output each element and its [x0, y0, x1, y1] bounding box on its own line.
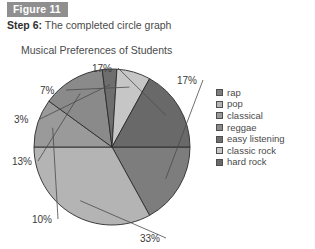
- chart-legend: rappopclassicalreggaeeasy listeningclass…: [216, 87, 312, 168]
- slice-value-label: 13%: [12, 156, 32, 167]
- pie-chart-svg: 17%33%10%13%3%7%17%: [12, 52, 212, 242]
- legend-label: pop: [227, 99, 243, 109]
- legend-swatch-icon: [216, 136, 223, 143]
- slice-value-label: 7%: [40, 85, 55, 96]
- step-label: Step 6:: [7, 19, 42, 31]
- step-text: The completed circle graph: [45, 19, 172, 31]
- legend-label: reggae: [227, 123, 257, 133]
- legend-label: classical: [227, 111, 263, 121]
- legend-swatch-icon: [216, 124, 223, 131]
- legend-item-reggae[interactable]: reggae: [216, 122, 312, 134]
- legend-item-easy-listening[interactable]: easy listening: [216, 133, 312, 145]
- legend-item-pop[interactable]: pop: [216, 99, 312, 111]
- legend-swatch-icon: [216, 101, 223, 108]
- slice-value-label: 17%: [92, 63, 112, 74]
- legend-item-rap[interactable]: rap: [216, 87, 312, 99]
- legend-item-classic-rock[interactable]: classic rock: [216, 145, 312, 157]
- legend-swatch-icon: [216, 159, 223, 166]
- legend-swatch-icon: [216, 112, 223, 119]
- pie-slices: [34, 69, 190, 225]
- legend-item-classical[interactable]: classical: [216, 110, 312, 122]
- figure-tag: Figure 11: [7, 2, 68, 17]
- legend-label: easy listening: [227, 134, 285, 144]
- slice-value-label: 33%: [140, 233, 160, 242]
- legend-label: classic rock: [227, 146, 276, 156]
- legend-label: hard rock: [227, 157, 267, 167]
- legend-label: rap: [227, 88, 241, 98]
- legend-swatch-icon: [216, 89, 223, 96]
- slice-value-label: 17%: [177, 75, 197, 86]
- step-caption: Step 6: The completed circle graph: [7, 19, 171, 32]
- circle-graph: Musical Preferences of Students 17%33%10…: [0, 40, 315, 249]
- slice-value-label: 3%: [14, 114, 29, 125]
- legend-swatch-icon: [216, 147, 223, 154]
- slice-value-label: 10%: [32, 214, 52, 225]
- legend-item-hard-rock[interactable]: hard rock: [216, 157, 312, 169]
